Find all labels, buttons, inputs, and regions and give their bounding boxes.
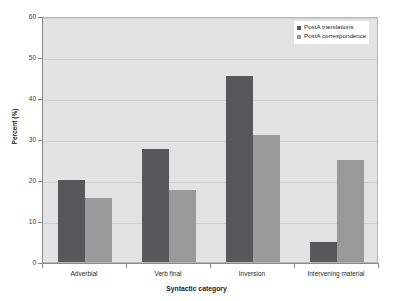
- plot-area: [42, 17, 378, 263]
- x-axis-tick-label: Verb final: [126, 270, 210, 277]
- legend-item: PostA translations: [297, 23, 366, 32]
- x-axis-tick: [294, 264, 295, 268]
- y-axis-tick: [38, 181, 42, 182]
- legend-label: PostA translations: [304, 24, 354, 30]
- bar: [310, 242, 337, 263]
- gridline: [43, 59, 377, 60]
- x-axis-tick-label: Intervening material: [294, 270, 378, 277]
- legend-label: PostA correspondence: [304, 33, 366, 39]
- gridline: [43, 141, 377, 142]
- bar: [337, 160, 364, 263]
- y-axis-line: [42, 17, 43, 264]
- gridline: [43, 100, 377, 101]
- y-axis-tick-label: 10: [6, 219, 36, 226]
- x-axis-title: Syntactic category: [0, 285, 393, 292]
- x-axis-tick: [42, 264, 43, 268]
- y-axis-tick: [38, 99, 42, 100]
- y-axis-tick: [38, 58, 42, 59]
- legend-item: PostA correspondence: [297, 32, 366, 41]
- x-axis-tick: [210, 264, 211, 268]
- x-axis-tick-label: Inversion: [210, 270, 294, 277]
- y-axis-tick-label: 0: [6, 260, 36, 267]
- bar: [226, 76, 253, 262]
- bar-chart-figure: 0102030405060 Percent (%) AdverbialVerb …: [0, 0, 393, 301]
- bar: [85, 198, 112, 262]
- bar: [253, 135, 280, 262]
- bar: [169, 190, 196, 262]
- x-axis-tick: [378, 264, 379, 268]
- gridline: [43, 182, 377, 183]
- legend-swatch-icon: [297, 26, 301, 30]
- bar: [142, 149, 169, 262]
- y-axis-tick: [38, 140, 42, 141]
- y-axis-tick-label: 50: [6, 55, 36, 62]
- y-axis-tick: [38, 222, 42, 223]
- x-axis-tick: [126, 264, 127, 268]
- bar: [58, 180, 85, 262]
- y-axis-title: Percent (%): [11, 97, 18, 157]
- legend-swatch-icon: [297, 35, 301, 39]
- y-axis-tick-label: 60: [6, 14, 36, 21]
- chart-legend: PostA translationsPostA correspondence: [294, 21, 369, 44]
- y-axis-tick-label: 20: [6, 178, 36, 185]
- x-axis-tick-label: Adverbial: [42, 270, 126, 277]
- gridline: [43, 18, 377, 19]
- y-axis-tick: [38, 17, 42, 18]
